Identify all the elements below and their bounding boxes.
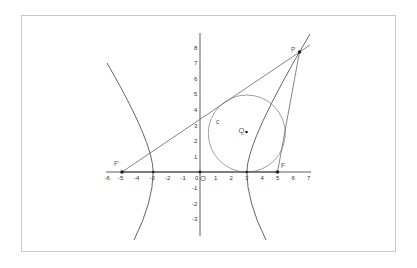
svg-text:-1: -1: [181, 175, 187, 181]
label-origin: O: [200, 174, 206, 183]
svg-text:8: 8: [194, 45, 198, 51]
label-f-prime: F': [114, 160, 119, 167]
svg-text:0: 0: [195, 175, 199, 181]
svg-text:4: 4: [261, 175, 265, 181]
label-circle-c: c: [216, 118, 220, 125]
label-q: Q: [239, 126, 245, 135]
svg-text:-4: -4: [134, 175, 140, 181]
svg-text:-5: -5: [118, 175, 124, 181]
hyperbola-right-branch: [247, 34, 310, 240]
svg-text:7: 7: [194, 60, 198, 66]
point-f: [276, 170, 280, 174]
line-f-prime-to-p: [122, 45, 310, 172]
svg-text:-3: -3: [192, 216, 198, 222]
incircle: [208, 95, 285, 172]
svg-text:6: 6: [292, 175, 296, 181]
graph-canvas: -6 -5 -4 -3 -2 -1 0 1 2 3 4 5 6 7 1 2 3 …: [0, 0, 417, 268]
point-q: [245, 131, 248, 134]
svg-text:6: 6: [194, 76, 198, 82]
svg-text:1: 1: [194, 154, 198, 160]
hyperbola-left-branch: [107, 63, 153, 240]
svg-text:2: 2: [230, 175, 234, 181]
svg-text:2: 2: [194, 138, 198, 144]
svg-text:1: 1: [214, 175, 218, 181]
svg-text:5: 5: [194, 91, 198, 97]
point-f-prime: [120, 170, 124, 174]
y-tick-labels: 1 2 3 4 5 6 7 8 -1 -2 -3: [192, 45, 198, 223]
svg-text:5: 5: [276, 175, 280, 181]
line-f-to-p: [278, 52, 300, 172]
svg-text:-6: -6: [105, 175, 111, 181]
svg-text:-2: -2: [192, 201, 198, 207]
svg-text:-2: -2: [165, 175, 171, 181]
label-p: P: [291, 46, 295, 53]
point-vertex-right: [246, 171, 249, 174]
point-vertex-left: [152, 171, 155, 174]
svg-text:7: 7: [307, 175, 311, 181]
point-p: [298, 50, 302, 54]
label-f: F: [281, 162, 285, 169]
svg-text:-1: -1: [192, 185, 198, 191]
x-tick-labels: -6 -5 -4 -3 -2 -1 0 1 2 3 4 5 6 7: [105, 175, 312, 181]
svg-text:4: 4: [194, 107, 198, 113]
